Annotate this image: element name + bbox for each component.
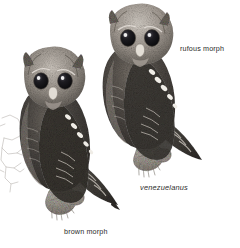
owl-plate-artwork [0,0,240,248]
label-brown-morph: brown morph [64,228,108,235]
label-rufous-morph: rufous morph [180,45,224,52]
label-subspecies-venezuelanus: venezuelanus [140,184,188,191]
rufous-morph-owl [103,3,202,177]
illustration-plate: rufous morph venezuelanus brown morph [0,0,240,248]
